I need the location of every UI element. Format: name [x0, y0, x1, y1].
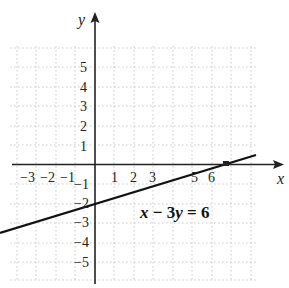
- y-tick-label: 1: [80, 140, 87, 154]
- graph-line: [0, 155, 256, 233]
- x-tick-label: 6: [208, 171, 215, 185]
- x-tick-label: 1: [111, 171, 118, 185]
- x-tick-label: 2: [130, 171, 137, 185]
- x-axis: [12, 160, 284, 169]
- y-tick-label: 2: [80, 120, 87, 134]
- y-tick-label: 5: [80, 61, 87, 75]
- coordinate-plane: [0, 0, 289, 288]
- x-tick-label: −3: [20, 171, 35, 185]
- x-tick-label: 5: [191, 171, 198, 185]
- y-tick-label: −3: [74, 216, 89, 230]
- grid: [10, 46, 258, 280]
- y-tick-label: −2: [74, 197, 89, 211]
- y-tick-label: 4: [80, 81, 87, 95]
- x-axis-label: x: [277, 171, 284, 187]
- y-tick-label: 3: [80, 100, 87, 114]
- y-tick-label: −5: [74, 256, 89, 270]
- x-tick-label: 3: [149, 171, 156, 185]
- y-axis-label: y: [78, 12, 85, 28]
- x-tick-label: −2: [40, 171, 55, 185]
- x-tick-label: −1: [60, 171, 75, 185]
- equation-label: x − 3y = 6: [140, 203, 209, 223]
- intercept-marker: [223, 161, 229, 166]
- y-tick-label: −4: [74, 236, 89, 250]
- y-tick-label: −1: [74, 178, 89, 192]
